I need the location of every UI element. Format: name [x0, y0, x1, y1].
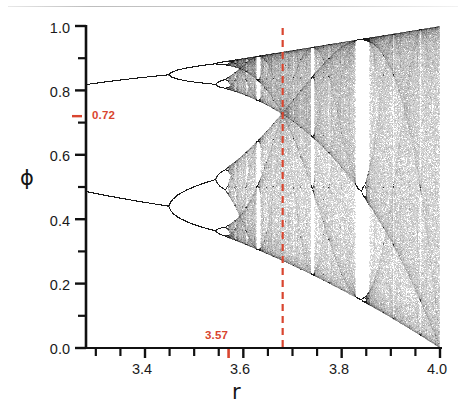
plot-canvas	[0, 0, 466, 414]
bifurcation-figure: ϕ r 1.0 0.8 0.6 0.4 0.2 0.0 3.4 3.6 3.8 …	[0, 0, 466, 414]
attractor-point-cloud	[86, 26, 440, 348]
